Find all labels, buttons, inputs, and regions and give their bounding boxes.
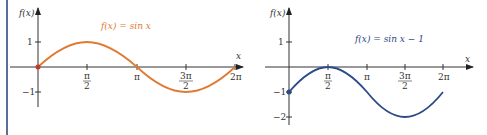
y-tick-minus-1: −1	[273, 87, 286, 97]
y-tick-minus-2: −2	[273, 112, 286, 122]
x-axis-label: x	[236, 51, 241, 61]
y-axis-label: f(x)	[18, 8, 35, 18]
equation-label: f(x) = sin x − 1	[354, 34, 424, 44]
equation-label: f(x) = sin x	[100, 21, 151, 31]
x-tick-pi: π	[364, 72, 370, 82]
chart-sin-minus-1: f(x) x 1 −1 −2 π 2 π 3π 2 2π f(x) = sin …	[245, 0, 487, 135]
x-tick-pi-2-num: π	[84, 71, 90, 81]
x-tick-3pi-2-den: 2	[402, 81, 408, 91]
x-tick-2pi: 2π	[438, 72, 450, 82]
y-tick-minus-1: −1	[22, 87, 35, 97]
x-tick-pi-2-num: π	[325, 71, 331, 81]
x-tick-2pi: 2π	[230, 72, 242, 82]
start-point	[287, 90, 292, 95]
y-tick-1: 1	[27, 37, 33, 47]
x-tick-3pi-2-num: 3π	[399, 71, 411, 81]
y-tick-1: 1	[278, 37, 284, 47]
chart-sin: f(x) x 1 −1 π 2 π 3π 2 2π f(x) = sin x	[0, 0, 245, 135]
start-point	[36, 65, 41, 70]
y-axis-label: f(x)	[269, 8, 286, 18]
x-tick-3pi-2-den: 2	[183, 81, 189, 91]
x-tick-pi: π	[134, 72, 140, 82]
x-axis-label: x	[465, 54, 470, 64]
x-tick-pi-2-den: 2	[325, 81, 331, 91]
x-tick-pi-2-den: 2	[84, 81, 90, 91]
x-tick-3pi-2-num: 3π	[180, 71, 192, 81]
